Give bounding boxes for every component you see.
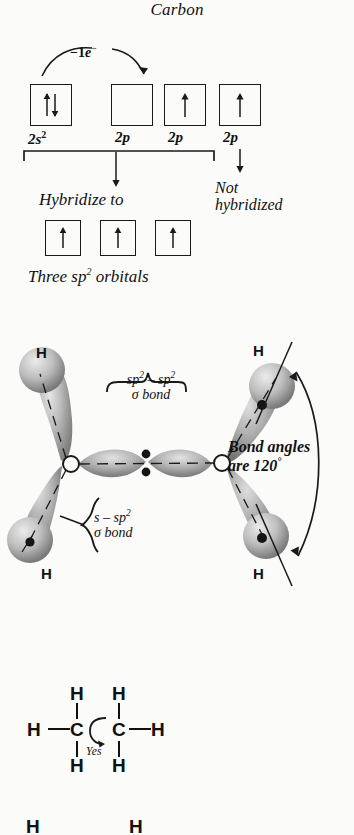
electron-promotion-arrow bbox=[38, 46, 178, 88]
ethane-h-bottom-right: H bbox=[112, 755, 126, 777]
single-electron-arrow-1 bbox=[164, 84, 206, 126]
not-hybridized-caption: Not hybridized bbox=[215, 180, 283, 214]
ethane-bond-h-right bbox=[129, 728, 151, 730]
s-sp2-line2: σ bond bbox=[94, 525, 178, 541]
hybrid-electron-arrow-3 bbox=[155, 220, 191, 256]
sigma-electron-dot-1 bbox=[142, 450, 151, 459]
bond-rotation-arrow bbox=[86, 714, 116, 748]
bond-angle-label: Bond angles are 120° bbox=[228, 438, 310, 475]
left-carbon-nucleus bbox=[63, 456, 79, 472]
hybridize-down-arrow bbox=[108, 150, 124, 192]
s-sp2-pointer bbox=[60, 516, 84, 525]
not-hybridized-down-arrow bbox=[232, 148, 248, 178]
single-electron-arrow-2 bbox=[219, 84, 261, 126]
bond-angle-line1: Bond angles bbox=[228, 438, 310, 456]
page-title: Carbon bbox=[0, 0, 354, 20]
c-c-bond-axis bbox=[79, 463, 214, 464]
h-label-lower-left: H bbox=[41, 565, 52, 582]
bond-angle-line2: are 120° bbox=[228, 456, 310, 475]
s-sp2-line1: s – sp2 bbox=[94, 508, 178, 525]
ethane-bond-v-top-left bbox=[76, 703, 78, 719]
h-label-lower-right: H bbox=[253, 565, 264, 582]
h-label-upper-left: H bbox=[36, 344, 47, 361]
ethane-bond-h-left bbox=[48, 728, 70, 730]
2p-orbital-box-1 bbox=[111, 84, 153, 126]
hybrid-electron-arrow-2 bbox=[100, 220, 136, 256]
rotation-yes-label: Yes bbox=[86, 745, 102, 757]
bond-angle-arrow-bottom bbox=[291, 546, 300, 556]
sp2-sp2-line2: σ bond bbox=[103, 387, 199, 403]
sigma-electron-dot-2 bbox=[142, 468, 151, 477]
not-hybridized-line1: Not bbox=[215, 180, 283, 197]
2p-orbital-label-1: 2p bbox=[115, 129, 130, 146]
ethane-h-top-left: H bbox=[70, 683, 84, 705]
sp2-sp2-line1: sp2 – sp2 bbox=[103, 370, 199, 387]
next-structure-h-left: H bbox=[26, 816, 40, 835]
s-sp2-sigma-bond-label: s – sp2 σ bond bbox=[94, 508, 178, 541]
2p-orbital-label-3: 2p bbox=[223, 129, 238, 146]
hybrid-electron-arrow-1 bbox=[45, 220, 81, 256]
not-hybridized-line2: hybridized bbox=[215, 197, 283, 214]
figure-page: Carbon −1e− 2s2 2p 2p 2p bbox=[0, 0, 354, 835]
ethane-h-left: H bbox=[27, 719, 41, 741]
hybridize-caption: Hybridize to bbox=[39, 190, 124, 210]
promotion-label: −1e− bbox=[70, 43, 96, 61]
ethane-carbon-left: C bbox=[70, 719, 84, 741]
ethane-h-right: H bbox=[151, 719, 165, 741]
next-structure-h-right: H bbox=[129, 816, 143, 835]
2p-orbital-label-2: 2p bbox=[168, 129, 183, 146]
2s-orbital-label: 2s2 bbox=[28, 129, 46, 148]
ethane-bond-v-top-right bbox=[118, 703, 120, 719]
h-label-upper-right: H bbox=[253, 342, 264, 359]
three-sp2-orbitals-caption: Three sp2 orbitals bbox=[28, 266, 149, 287]
sp2-sp2-sigma-bond-label: sp2 – sp2 σ bond bbox=[103, 370, 199, 403]
paired-electron-arrows bbox=[30, 84, 72, 126]
ethane-h-top-right: H bbox=[112, 683, 126, 705]
ethane-h-bottom-left: H bbox=[70, 755, 84, 777]
